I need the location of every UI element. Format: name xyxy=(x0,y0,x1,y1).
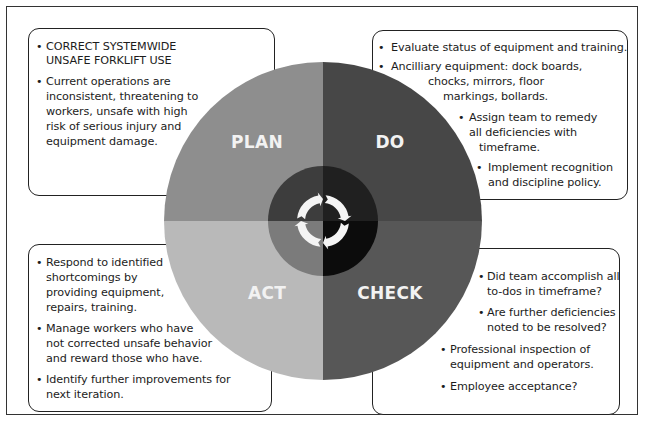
do-bullet-3-line-1: Assign team to remedy xyxy=(469,111,597,125)
act-bullet-1-line-2: shortcomings by xyxy=(46,271,138,285)
bullet-icon: • xyxy=(36,322,43,336)
act-bullet-1-line-4: repairs, training. xyxy=(46,301,137,315)
plan-bullet-2-line-2: inconsistent, threatening to xyxy=(46,90,198,104)
check-bullet-2-line-2: noted to be resolved? xyxy=(487,321,607,335)
do-bullet-1-line-1: Evaluate status of equipment and trainin… xyxy=(391,41,627,55)
plan-label: PLAN xyxy=(231,132,283,152)
do-bullet-2-line-3: markings, bollards. xyxy=(443,90,548,104)
bullet-icon: • xyxy=(378,60,385,74)
bullet-icon: • xyxy=(36,373,43,387)
do-label: DO xyxy=(375,132,404,152)
check-bullet-2-line-1: Are further deficiencies xyxy=(487,306,615,320)
plan-bullet-2-line-1: Current operations are xyxy=(46,75,171,89)
act-bullet-1-line-3: providing equipment, xyxy=(46,286,164,300)
bullet-icon: • xyxy=(378,41,385,55)
do-bullet-4-line-1: Implement recognition xyxy=(488,161,613,175)
bullet-icon: • xyxy=(458,111,465,125)
bullet-icon: • xyxy=(478,270,485,284)
bullet-icon: • xyxy=(440,343,447,357)
act-label: ACT xyxy=(248,283,286,303)
check-bullet-1-line-2: to-dos in timeframe? xyxy=(487,285,602,299)
check-bullet-4-line-1: Employee acceptance? xyxy=(450,380,577,394)
bullet-icon: • xyxy=(478,306,485,320)
plan-bullet-2-line-3: workers, unsafe with high xyxy=(46,105,188,119)
act-bullet-2-line-2: not corrected unsafe behavior xyxy=(46,337,212,351)
act-bullet-2-line-1: Manage workers who have xyxy=(46,322,193,336)
do-bullet-3-line-2: all deficiencies with xyxy=(469,126,577,140)
check-bullet-3-line-2: equipment and operators. xyxy=(450,358,594,372)
bullet-icon: • xyxy=(36,256,43,270)
act-bullet-1-line-1: Respond to identified xyxy=(46,256,163,270)
do-bullet-3-line-3: timeframe. xyxy=(479,141,540,155)
bullet-icon: • xyxy=(476,161,483,175)
plan-bullet-2-line-4: risk of serious injury and xyxy=(46,120,181,134)
act-bullet-3-line-1: Identify further improvements for xyxy=(46,373,230,387)
do-bullet-2-line-2: chocks, mirrors, floor xyxy=(428,75,544,89)
act-bullet-3-line-2: next iteration. xyxy=(46,388,124,402)
bullet-icon: • xyxy=(36,40,43,54)
check-label: CHECK xyxy=(357,283,422,303)
bullet-icon: • xyxy=(440,380,447,394)
plan-bullet-2-line-5: equipment damage. xyxy=(46,135,158,149)
act-bullet-2-line-3: and reward those who have. xyxy=(46,352,203,366)
check-bullet-3-line-1: Professional inspection of xyxy=(450,343,590,357)
plan-bullet-1-line-2: UNSAFE FORKLIFT USE xyxy=(46,54,172,68)
plan-bullet-1-line-1: CORRECT SYSTEMWIDE xyxy=(46,40,176,54)
bullet-icon: • xyxy=(36,75,43,89)
check-bullet-1-line-1: Did team accomplish all xyxy=(487,270,619,284)
do-bullet-4-line-2: and discipline policy. xyxy=(488,176,601,190)
do-bullet-2-line-1: Ancilliary equipment: dock boards, xyxy=(391,60,582,74)
